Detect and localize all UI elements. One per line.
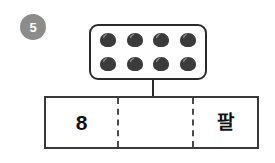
chestnut-icon — [179, 56, 197, 72]
answer-cell-numeral[interactable]: 8 — [46, 98, 117, 147]
answer-cell-numeral-text: 8 — [76, 112, 88, 133]
answer-table: 8 팔 — [44, 96, 259, 149]
worksheet-page: 5 — [0, 0, 275, 163]
answer-cell-korean[interactable]: 팔 — [192, 98, 257, 147]
answer-cell-korean-text: 팔 — [217, 113, 234, 132]
chestnut-icon — [126, 56, 144, 72]
chestnut-icon — [152, 32, 170, 48]
object-group-box — [89, 24, 207, 80]
chestnut-icon — [152, 56, 170, 72]
object-grid — [91, 26, 205, 78]
answer-cell-blank[interactable] — [117, 98, 192, 147]
chestnut-icon — [99, 32, 117, 48]
question-number-text: 5 — [29, 21, 36, 34]
chestnut-icon — [179, 32, 197, 48]
chestnut-icon — [99, 56, 117, 72]
question-number-badge: 5 — [20, 14, 46, 40]
connector-line — [152, 79, 154, 97]
chestnut-icon — [126, 32, 144, 48]
